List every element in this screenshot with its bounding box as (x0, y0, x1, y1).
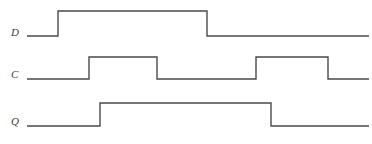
signal-trace-q (27, 103, 369, 126)
signal-label-d: D (11, 27, 19, 38)
waveform-traces (27, 11, 369, 126)
signal-trace-c (27, 57, 369, 79)
signal-label-q: Q (11, 116, 19, 127)
waveform-svg (0, 0, 372, 144)
signal-trace-d (27, 11, 369, 36)
timing-diagram-canvas: D C Q (0, 0, 372, 144)
signal-label-c: C (11, 69, 18, 80)
